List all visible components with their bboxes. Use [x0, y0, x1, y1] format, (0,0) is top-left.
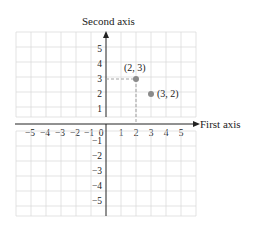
- x-axis-label: First axis: [200, 118, 241, 130]
- svg-text:−5: −5: [25, 128, 35, 138]
- coordinate-plane: (2, 3) (3, 2) Second axis First axis −5 …: [0, 0, 254, 229]
- svg-text:−3: −3: [55, 128, 65, 138]
- svg-text:−3: −3: [92, 166, 102, 176]
- y-axis-label: Second axis: [82, 15, 135, 27]
- x-axis-arrow-icon: [193, 121, 200, 127]
- svg-text:4: 4: [97, 59, 102, 69]
- point-3-2: [148, 91, 154, 97]
- point-label-3-2: (3, 2): [157, 88, 179, 100]
- point-2-3: [133, 76, 139, 82]
- svg-text:−1: −1: [92, 136, 102, 146]
- svg-text:−5: −5: [92, 196, 102, 206]
- axes: [15, 37, 194, 124]
- svg-text:−4: −4: [92, 181, 102, 191]
- svg-text:1: 1: [97, 104, 102, 114]
- svg-text:2: 2: [97, 89, 102, 99]
- svg-text:−2: −2: [92, 151, 102, 161]
- svg-text:3: 3: [97, 74, 102, 84]
- y-tick-labels: 5 4 3 2 1 −1 −2 −3 −4 −5: [92, 44, 102, 206]
- svg-text:5: 5: [97, 44, 102, 54]
- x-tick-labels: −5 −4 −3 −2 −1 0 1 2 3 4 5: [25, 128, 184, 138]
- point-label-2-3: (2, 3): [124, 62, 146, 74]
- svg-text:−4: −4: [40, 128, 50, 138]
- svg-text:−2: −2: [70, 128, 80, 138]
